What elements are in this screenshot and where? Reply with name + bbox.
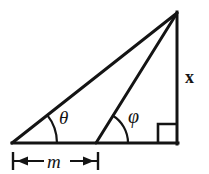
hypotenuse-theta-line <box>12 13 177 143</box>
angle-theta-label: θ <box>59 108 68 127</box>
right-angle-marker <box>158 124 177 143</box>
geometry-figure: θ φ x m <box>0 0 209 174</box>
angle-phi-label: φ <box>128 106 139 126</box>
phi-angle-arc <box>112 115 128 143</box>
theta-angle-arc <box>47 115 57 143</box>
triangle-diagram-canvas <box>0 0 209 174</box>
base-distance-label: m <box>47 152 61 171</box>
dimension-arrowhead-left <box>17 157 28 166</box>
vertical-side-label: x <box>185 68 194 86</box>
dimension-arrowhead-right <box>83 157 94 166</box>
